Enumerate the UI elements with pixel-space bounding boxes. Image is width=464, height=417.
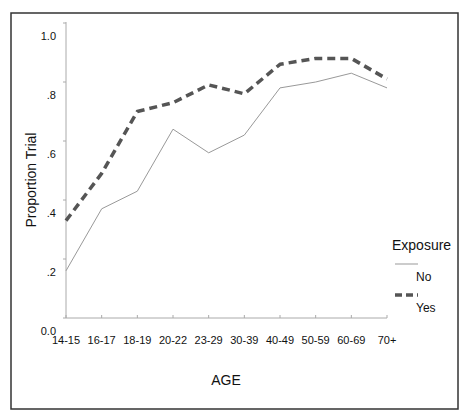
x-tick-label: 18-19 <box>123 334 151 346</box>
legend-label-no: No <box>416 270 432 284</box>
x-tick-label: 40-49 <box>266 334 294 346</box>
x-tick-label: 50-59 <box>302 334 330 346</box>
legend-label-yes: Yes <box>416 301 436 315</box>
x-tick-label: 70+ <box>378 334 397 346</box>
x-axis-title: AGE <box>211 372 241 388</box>
x-tick-label: 16-17 <box>88 334 116 346</box>
x-tick-label: 14-15 <box>52 334 80 346</box>
y-tick-label: 1.0 <box>41 30 56 42</box>
y-axis-title: Proportion Trial <box>23 133 39 228</box>
x-tick-label: 20-22 <box>159 334 187 346</box>
y-tick-label: .4 <box>47 207 56 219</box>
x-tick-label: 30-39 <box>230 334 258 346</box>
legend-title: Exposure <box>392 237 451 253</box>
x-tick-label: 23-29 <box>195 334 223 346</box>
line-chart: 0.0.2.4.6.81.0 14-1516-1718-1920-2223-29… <box>0 0 464 417</box>
y-tick-label: .8 <box>47 89 56 101</box>
y-tick-label: .6 <box>47 148 56 160</box>
y-tick-label: .2 <box>47 266 56 278</box>
chart-frame <box>11 13 458 409</box>
x-tick-label: 60-69 <box>337 334 365 346</box>
